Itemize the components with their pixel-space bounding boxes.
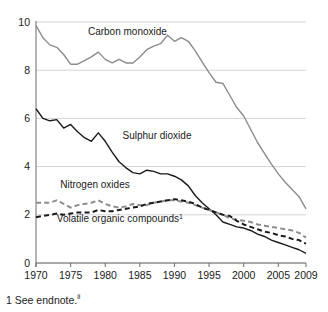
emissions-line-chart: 0246810 19701975198019851990199520002005… xyxy=(0,0,328,312)
series-label-carbon-monoxide: Carbon monoxide xyxy=(88,26,167,37)
x-tick-label-1985: 1985 xyxy=(128,269,152,281)
y-axis-tick-labels: 0246810 xyxy=(18,16,30,269)
series-label-nitrogen-oxides: Nitrogen oxides xyxy=(60,179,129,190)
footnote-text: 1 See endnote. xyxy=(6,294,77,306)
x-tick-label-1990: 1990 xyxy=(163,269,187,281)
series-labels: Carbon monoxideSulphur dioxideNitrogen o… xyxy=(57,26,192,224)
chart-canvas: 0246810 19701975198019851990199520002005… xyxy=(0,0,328,312)
y-tick-label-2: 2 xyxy=(24,208,30,220)
x-axis-ticks xyxy=(36,263,306,267)
y-tick-label-6: 6 xyxy=(24,112,30,124)
x-tick-label-1975: 1975 xyxy=(59,269,83,281)
x-tick-label-1970: 1970 xyxy=(24,269,48,281)
y-tick-label-0: 0 xyxy=(24,257,30,269)
gridlines xyxy=(36,22,306,263)
series-label-volatile-organic-compounds: Volatile organic compounds1 xyxy=(57,213,183,225)
y-tick-label-8: 8 xyxy=(24,64,30,76)
x-tick-label-2005: 2005 xyxy=(267,269,291,281)
series-label-sulphur-dioxide: Sulphur dioxide xyxy=(123,130,192,141)
x-tick-label-1980: 1980 xyxy=(94,269,118,281)
x-tick-label-2000: 2000 xyxy=(232,269,256,281)
footnote-marker: ii xyxy=(77,293,80,300)
series-label-footnote-marker: 1 xyxy=(179,213,183,220)
x-axis-tick-labels: 197019751980198519901995200020052009 xyxy=(24,269,318,281)
x-tick-label-2009: 2009 xyxy=(294,269,318,281)
x-tick-label-1995: 1995 xyxy=(197,269,221,281)
y-tick-label-4: 4 xyxy=(24,160,30,172)
footnote: 1 See endnote.ii xyxy=(6,291,80,306)
y-tick-label-10: 10 xyxy=(18,16,30,28)
